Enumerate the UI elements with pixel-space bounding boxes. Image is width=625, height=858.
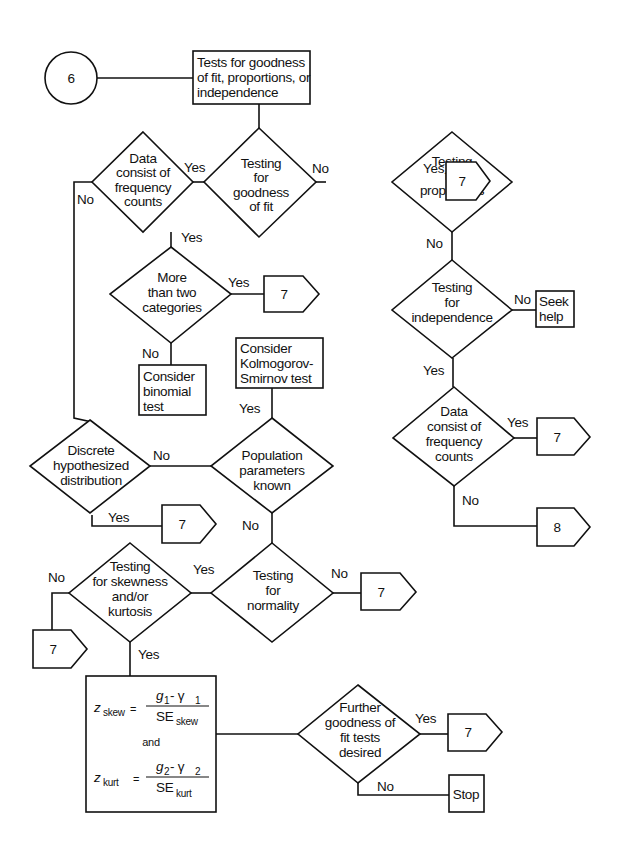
decision-more-than-two-categories: More than two categories [110, 247, 231, 343]
label: 7 [178, 517, 185, 532]
pentagon [448, 714, 502, 751]
edge-label-gof-no: No [312, 161, 329, 176]
den-sub: skew [176, 716, 199, 727]
label-line: Testing [241, 156, 282, 171]
decision-normality: Testing for normality [211, 543, 333, 642]
edge-further-no [358, 783, 449, 795]
label-line: counts [435, 449, 474, 464]
label-line: for [254, 170, 270, 185]
edge-label-freq-left-yes: Yes [181, 230, 203, 245]
offpage-connector-discrete-yes: 7 [162, 505, 216, 543]
decision-population-parameters-known: Population parameters known [211, 418, 333, 513]
label-line: hypothesized [53, 458, 129, 473]
label-line: desired [339, 745, 381, 760]
label-line: Kolmogorov- [240, 356, 313, 371]
equals: = [130, 703, 136, 715]
label-line: parameters [239, 463, 305, 478]
edge-label-freq-left-no: No [77, 192, 94, 207]
label-line: of fit [249, 199, 273, 214]
equals: = [133, 773, 139, 785]
edge-label-further-yes: Yes [415, 711, 437, 726]
start-connector-6: 6 [45, 52, 97, 104]
lhs-sub: kurt [103, 777, 119, 788]
edge-label-pop-no-left: No [153, 448, 170, 463]
pentagon [361, 573, 416, 610]
label-line: kurtosis [108, 604, 153, 619]
offpage-connector-freq-right-yes: 7 [537, 418, 590, 455]
decision-skewness-kurtosis: Testing for skewness and/or kurtosis [69, 543, 191, 642]
terminal-seek-help: Seek help [536, 291, 574, 327]
edge-freq-left-no [74, 182, 92, 422]
label-line: Smirnov test [240, 371, 312, 386]
edge-label-more-no: No [142, 346, 159, 361]
label-line: than two [148, 285, 197, 300]
edge-label-further-no: No [377, 779, 394, 794]
label-line: distribution [60, 473, 122, 488]
label: 7 [49, 642, 56, 657]
den: SE [156, 709, 174, 724]
label-line: help [539, 309, 563, 324]
offpage-connector-freq-right-no: 8 [537, 508, 590, 546]
title-box: Tests for goodness of fit, proportions, … [193, 51, 311, 104]
label-line: binomial [143, 384, 191, 399]
num: g [156, 688, 164, 703]
label-line: Consider [143, 369, 195, 384]
formula-and: and [142, 736, 160, 748]
title-line-2: of fit, proportions, or [197, 70, 311, 85]
label-line: frequency [115, 180, 172, 195]
decision-further-tests: Further goodness of fit tests desired [298, 685, 420, 783]
label-line: Data [440, 404, 468, 419]
edge-label-freq-right-yes: Yes [507, 415, 529, 430]
edge-label-freq-right-no: No [462, 493, 479, 508]
offpage-connector-further-yes: 7 [448, 714, 502, 751]
label-line: normality [247, 598, 300, 613]
pentagon [537, 418, 590, 455]
label: 7 [458, 174, 465, 189]
label-line: Data [129, 151, 157, 166]
edge-label-prop-yes: Yes [423, 161, 445, 176]
edge-skew-no [52, 593, 69, 630]
decision-independence: Testing for independence [392, 260, 512, 358]
lhs-sub: skew [103, 707, 126, 718]
label-line: Testing [110, 559, 151, 574]
num-rest-sub: 2 [195, 766, 201, 777]
num-rest: - γ [170, 759, 185, 774]
label-line: for [445, 295, 461, 310]
label-line: categories [142, 300, 202, 315]
label-line: independence [411, 310, 492, 325]
edge-label-gof-yes: Yes [184, 160, 206, 175]
terminal-stop: Stop [449, 775, 484, 812]
label-line: consist of [116, 165, 171, 180]
offpage-connector-normality-no: 7 [361, 573, 416, 610]
label-line: for skewness [92, 574, 168, 589]
label-line: and/or [112, 589, 149, 604]
process-ks-test: Consider Kolmogorov- Smirnov test [236, 338, 323, 388]
offpage-connector-more-yes: 7 [264, 276, 319, 312]
label-line: consist of [427, 419, 482, 434]
edge-label-indep-yes: Yes [423, 363, 445, 378]
pentagon [162, 505, 216, 543]
label-line: known [253, 478, 291, 493]
pentagon [33, 630, 87, 668]
edge-label-more-yes: Yes [228, 275, 250, 290]
label-line: More [157, 270, 187, 285]
label-line: Testing [253, 568, 294, 583]
label-line: Population [242, 448, 303, 463]
den: SE [156, 780, 174, 795]
label-line: goodness [233, 185, 290, 200]
label: 8 [553, 520, 560, 535]
edge-label-skew-no: No [48, 570, 65, 585]
lhs: z [93, 700, 101, 715]
label-line: goodness of [325, 715, 396, 730]
label-line: Discrete [67, 443, 114, 458]
label-line: Consider [240, 341, 292, 356]
label-line: for [266, 583, 282, 598]
edge-label-discrete-yes: Yes [108, 510, 130, 525]
title-line-3: independence [197, 85, 278, 100]
decision-discrete-hypothesized-distribution: Discrete hypothesized distribution [30, 420, 150, 513]
edge-label-skew-yes: Yes [138, 647, 160, 662]
title-line-1: Tests for goodness [197, 55, 305, 70]
label-line: fit tests [340, 730, 381, 745]
decision-frequency-counts-left: Data consist of frequency counts [92, 132, 193, 232]
offpage-connector-skew-no: 7 [33, 630, 87, 668]
